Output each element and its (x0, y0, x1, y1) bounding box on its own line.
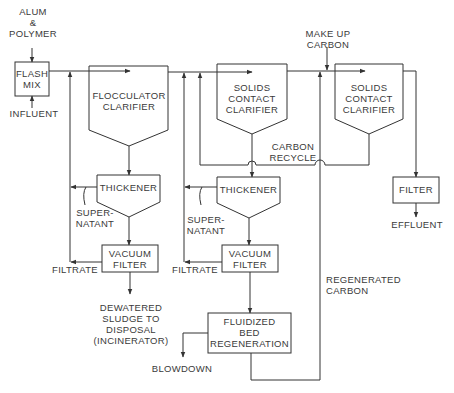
supernatant-1-pointer (84, 187, 86, 205)
regenerated-carbon-label: REGENERATEDCARBON (326, 274, 406, 296)
filtrate-2-label: FILTRATE (168, 264, 222, 275)
solids-contact-clarifier-2-label: SOLIDSCONTACTCLARIFIER (335, 82, 403, 115)
vacuum-filter-1-label: VACUUMFILTER (102, 248, 158, 270)
sc2-to-filter-line (403, 71, 416, 177)
alum-polymer-label: ALUM&POLYMER (8, 6, 58, 39)
vacuum-filter-2-label: VACUUMFILTER (222, 248, 278, 270)
blowdown-arrow (183, 333, 208, 357)
solids-contact-clarifier-1-label: SOLIDSCONTACTCLARIFIER (217, 82, 287, 115)
thickener-1-label: THICKENER (97, 182, 160, 193)
regen-to-return-line (251, 352, 320, 380)
supernatant-2-pointer (200, 187, 202, 205)
effluent-label: EFFLUENT (390, 219, 444, 230)
filtrate-1-label: FILTRATE (48, 264, 102, 275)
thickener-2-label: THICKENER (217, 184, 280, 195)
supernatant-1-label: SUPER-NATANT (75, 207, 115, 229)
blowdown-label: BLOWDOWN (150, 363, 214, 374)
make-up-carbon-label: MAKE UPCARBON (298, 28, 358, 50)
dewatered-sludge-label: DEWATEREDSLUDGE TODISPOSAL(INCINERATOR) (92, 302, 170, 346)
fluidized-bed-label: FLUIDIZEDBEDREGENERATION (208, 316, 291, 349)
filter-label: FILTER (393, 184, 439, 195)
influent-label: INFLUENT (6, 108, 62, 119)
flocculator-clarifier-label: FLOCCULATORCLARIFIER (90, 90, 168, 112)
flash-mix-label: FLASHMIX (16, 68, 48, 90)
supernatant-2-label: SUPER-NATANT (186, 214, 226, 236)
carbon-recycle-label: CARBONRECYCLE (268, 141, 318, 163)
